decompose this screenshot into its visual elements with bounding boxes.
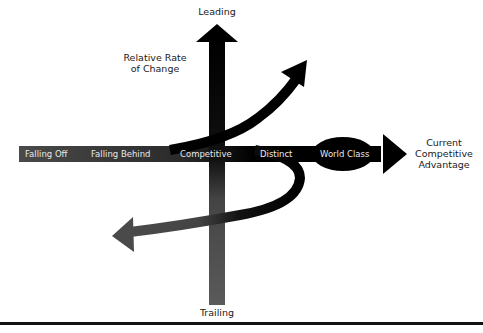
vertical-axis-name-line2: of Change [110,63,200,74]
leading-label: Leading [190,6,244,17]
falling-arrowhead [112,217,134,252]
trailing-label: Trailing [190,307,244,318]
vertical-axis-band [196,24,238,305]
stage-falling-off: Falling Off [25,149,67,159]
stage-competitive: Competitive [180,149,232,159]
up-arrowhead [196,24,238,42]
stage-falling-behind: Falling Behind [91,149,150,159]
horizontal-axis-name-line1: Current [405,137,483,148]
stage-world-class: World Class [320,149,369,159]
falling-curve [112,150,300,252]
vertical-axis-name-line1: Relative Rate [110,52,200,63]
horizontal-axis-name: Current Competitive Advantage [405,137,483,170]
stage-distinct: Distinct [260,149,292,159]
vertical-axis-name: Relative Rate of Change [110,52,200,74]
horizontal-axis-name-line2: Competitive [405,148,483,159]
right-arrowhead [383,134,407,174]
bottom-rule [0,322,483,325]
horizontal-axis-name-line3: Advantage [405,159,483,170]
